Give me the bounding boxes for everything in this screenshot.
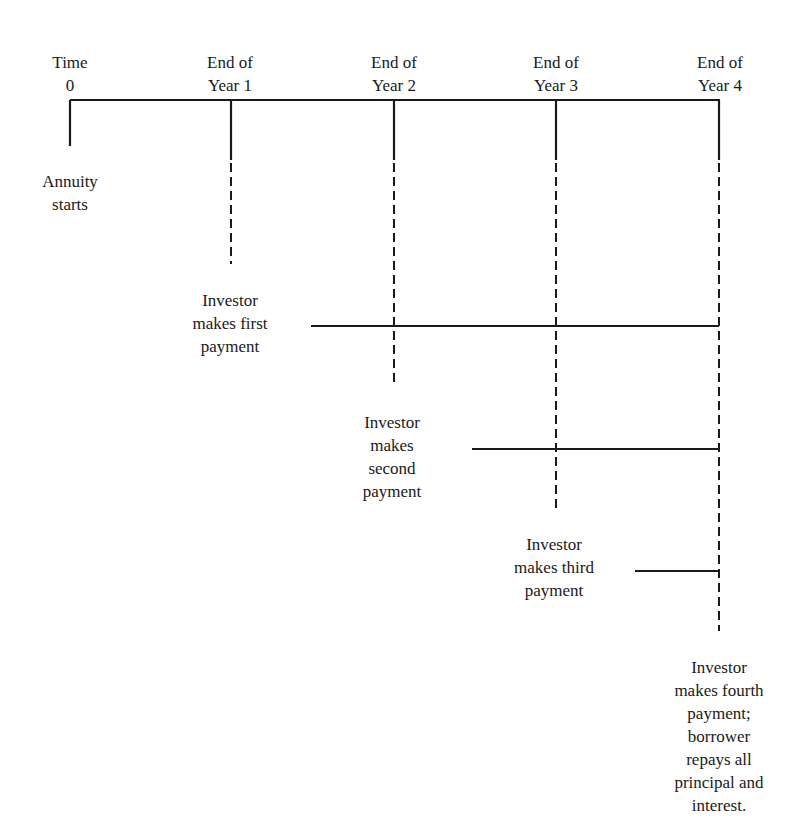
event-line: makes third (484, 556, 624, 579)
event-line: payment; (648, 702, 790, 725)
label-line: End of (506, 51, 606, 74)
event-line: Investor (332, 411, 452, 434)
label-line: End of (180, 51, 280, 74)
event-line: principal and (648, 771, 790, 794)
event-line: payment (332, 480, 452, 503)
label-line: End of (344, 51, 444, 74)
event-third-payment: Investor makes third payment (484, 533, 624, 602)
event-annuity-starts: Annuity starts (15, 170, 125, 216)
event-line: payment (160, 335, 300, 358)
event-line: interest. (648, 794, 790, 817)
label-time-0: Time 0 (30, 51, 110, 97)
label-end-year-2: End of Year 2 (344, 51, 444, 97)
event-line: second (332, 457, 452, 480)
event-second-payment: Investor makes second payment (332, 411, 452, 503)
label-line: 0 (30, 74, 110, 97)
event-first-payment: Investor makes first payment (160, 289, 300, 358)
label-line: Time (30, 51, 110, 74)
event-line: payment (484, 579, 624, 602)
label-line: Year 1 (180, 74, 280, 97)
event-line: repays all (648, 748, 790, 771)
event-line: makes first (160, 312, 300, 335)
event-line: Investor (648, 656, 790, 679)
event-line: Annuity (15, 170, 125, 193)
event-line: Investor (160, 289, 300, 312)
event-line: Investor (484, 533, 624, 556)
label-end-year-4: End of Year 4 (670, 51, 770, 97)
label-end-year-3: End of Year 3 (506, 51, 606, 97)
event-line: starts (15, 193, 125, 216)
label-line: Year 3 (506, 74, 606, 97)
label-line: Year 2 (344, 74, 444, 97)
label-line: Year 4 (670, 74, 770, 97)
event-line: makes (332, 434, 452, 457)
label-end-year-1: End of Year 1 (180, 51, 280, 97)
event-line: borrower (648, 725, 790, 748)
event-fourth-payment: Investor makes fourth payment; borrower … (648, 656, 790, 817)
event-line: makes fourth (648, 679, 790, 702)
label-line: End of (670, 51, 770, 74)
